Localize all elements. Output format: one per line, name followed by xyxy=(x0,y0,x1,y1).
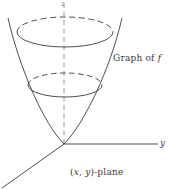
paraboloid-figure xyxy=(0,0,173,189)
paraboloid-right-outline xyxy=(64,18,122,144)
xy-plane-label: (x, y)-plane xyxy=(70,167,124,177)
paren-close-plane: )-plane xyxy=(90,167,123,177)
paraboloid-left-outline xyxy=(8,18,64,144)
y-axis-label: y xyxy=(160,138,165,148)
graph-of-f-text: Graph of xyxy=(113,53,155,63)
upper-level-curve-back xyxy=(17,17,113,32)
x-axis-line xyxy=(2,144,64,188)
graph-of-f-label: Graph of f xyxy=(113,53,161,63)
upper-level-curve-front xyxy=(17,32,113,47)
lower-level-curve-back xyxy=(28,73,102,85)
lower-level-curve-front xyxy=(28,85,102,97)
z-axis-label: z xyxy=(61,0,65,8)
function-symbol-f: f xyxy=(158,53,162,63)
